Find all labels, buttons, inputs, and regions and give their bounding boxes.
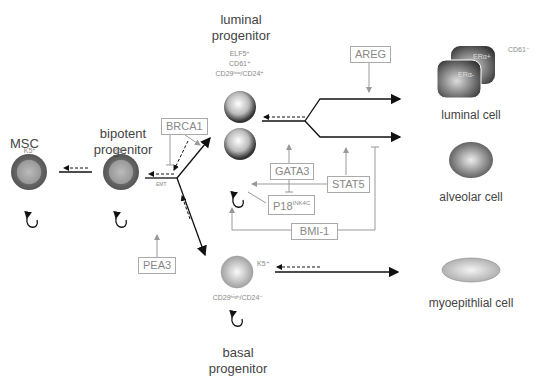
luminal-progenitor-cell-2 bbox=[224, 128, 256, 160]
msc-marker: K5⁺ bbox=[22, 146, 38, 156]
basal-marker-side: K5⁺ bbox=[257, 259, 270, 269]
brca1-box: BRCA1 bbox=[161, 118, 208, 135]
basal-marker-below: CD29ʰⁱᵍʰ/CD24⁻ bbox=[203, 293, 273, 303]
gata3-box: GATA3 bbox=[270, 163, 314, 180]
alveolar-cell-label: alveolar cell bbox=[428, 190, 514, 204]
bipotent-marker: K5⁺ bbox=[112, 146, 128, 156]
luminal-progenitor-title: luminal progenitor bbox=[206, 12, 276, 44]
bipotent-cell bbox=[103, 154, 139, 190]
emt-label: EMT bbox=[156, 179, 167, 189]
alveolar-cell bbox=[449, 142, 493, 178]
msc-cell bbox=[11, 154, 47, 190]
luminal-progenitor-cell-1 bbox=[224, 91, 256, 123]
basal-progenitor-title: basal progenitor bbox=[203, 345, 273, 377]
myoepithelial-cell-label: myoepithlial cell bbox=[418, 296, 524, 310]
myoepithelial-cell bbox=[442, 258, 500, 282]
basal-progenitor-cell bbox=[221, 256, 253, 288]
stat5-box: STAT5 bbox=[327, 176, 370, 193]
er-neg-label: ERα- bbox=[458, 70, 474, 80]
pea3-box: PEA3 bbox=[138, 257, 176, 274]
p18-box: P18INK4C bbox=[268, 195, 315, 215]
bmi1-box: BMI-1 bbox=[291, 223, 338, 240]
luminal-cell-label: luminal cell bbox=[428, 108, 514, 122]
areg-box: AREG bbox=[350, 46, 391, 63]
er-pos-label: ERα+ bbox=[473, 52, 491, 62]
self-renewal-icons bbox=[27, 198, 244, 326]
luminal-progenitor-markers: ELF5⁺ CD61⁺ CD29ˡᵒʷ/CD24⁺ bbox=[205, 49, 275, 79]
luminal-cell-marker: CD61⁻ bbox=[508, 45, 530, 55]
